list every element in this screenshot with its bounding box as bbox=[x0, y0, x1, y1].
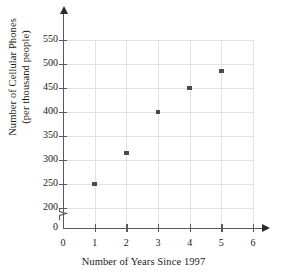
gridline-vertical bbox=[190, 40, 191, 228]
y-tick-mark bbox=[59, 40, 67, 41]
y-tick-label: 400 bbox=[43, 105, 58, 116]
y-tick-mark bbox=[59, 184, 67, 185]
gridline-vertical bbox=[158, 40, 159, 228]
x-tick-label: 0 bbox=[58, 237, 68, 248]
x-tick-mark bbox=[126, 224, 127, 232]
data-point bbox=[187, 86, 192, 91]
y-tick-label: 300 bbox=[43, 153, 58, 164]
y-tick-mark bbox=[59, 208, 67, 209]
y-tick-label: 200 bbox=[43, 201, 58, 212]
y-tick-label: 550 bbox=[43, 33, 58, 44]
x-tick-mark bbox=[190, 224, 191, 232]
x-tick-mark bbox=[158, 224, 159, 232]
data-point bbox=[124, 151, 129, 156]
y-tick-mark bbox=[59, 160, 67, 161]
y-tick-label: 350 bbox=[43, 129, 58, 140]
y-tick-mark bbox=[59, 136, 67, 137]
x-tick-label: 1 bbox=[90, 237, 100, 248]
x-axis-arrow-icon bbox=[262, 224, 270, 232]
y-axis-title: Number of Cellular Phones (per thousand … bbox=[6, 0, 40, 162]
x-tick-label: 2 bbox=[121, 237, 131, 248]
data-point bbox=[156, 110, 161, 115]
y-axis-break-icon bbox=[58, 208, 69, 221]
x-tick-label: 3 bbox=[153, 237, 163, 248]
x-axis-line bbox=[63, 228, 263, 229]
y-tick-mark bbox=[59, 88, 67, 89]
y-tick-label: 500 bbox=[43, 57, 58, 68]
y-tick-mark bbox=[59, 112, 67, 113]
x-tick-label: 4 bbox=[185, 237, 195, 248]
x-tick-mark bbox=[221, 224, 222, 232]
x-tick-label: 5 bbox=[216, 237, 226, 248]
x-axis-title: Number of Years Since 1997 bbox=[0, 256, 287, 267]
gridline-vertical bbox=[95, 40, 96, 228]
gridline-vertical bbox=[253, 40, 254, 228]
y-axis-arrow-icon bbox=[60, 6, 68, 14]
x-tick-mark bbox=[95, 224, 96, 232]
y-tick-label: 450 bbox=[43, 81, 58, 92]
y-axis-title-line-2: (per thousand people) bbox=[19, 0, 32, 162]
scatter-chart-figure: Number of Cellular Phones (per thousand … bbox=[0, 0, 287, 278]
y-axis-line bbox=[63, 12, 64, 229]
y-tick-label: 250 bbox=[43, 177, 58, 188]
y-axis-title-line-1: Number of Cellular Phones bbox=[6, 0, 19, 162]
x-tick-label: 6 bbox=[248, 237, 258, 248]
gridline-vertical bbox=[126, 40, 127, 228]
y-axis-origin-label: 0 bbox=[53, 221, 58, 232]
data-point bbox=[219, 69, 224, 74]
data-point bbox=[92, 182, 97, 187]
plot-area: 2002503003504004505005500 0123456 bbox=[63, 12, 267, 240]
y-tick-mark bbox=[59, 64, 67, 65]
x-tick-mark bbox=[253, 224, 254, 232]
